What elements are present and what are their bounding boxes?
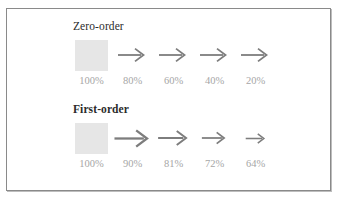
cell-label: 80%: [123, 75, 142, 87]
glyph-container: [112, 122, 153, 154]
glyph-container: [194, 39, 235, 71]
sequence-cell: 20%: [235, 39, 276, 87]
sequence-cell: 90%: [112, 122, 153, 170]
cell-label: 20%: [246, 75, 265, 87]
sequence-cell: 64%: [235, 122, 276, 170]
arrow-right-icon: [201, 130, 228, 146]
arrow-right-icon: [113, 127, 153, 150]
figure-root: Zero-order 100%: [0, 0, 340, 201]
gray-swatch-icon: [75, 123, 108, 154]
sequence-cell: 60%: [153, 39, 194, 87]
sequence-row-first-order: 100% 90%: [71, 122, 276, 170]
glyph-container: [235, 39, 276, 71]
sequence-row-zero-order: 100% 80%: [71, 39, 276, 87]
block-first-order: First-order 100%: [71, 102, 276, 170]
cell-label: 60%: [164, 75, 183, 87]
block-first-order-title: First-order: [73, 102, 276, 116]
cell-label: 90%: [123, 158, 142, 170]
cell-label: 72%: [205, 158, 224, 170]
glyph-container: [112, 39, 153, 71]
sequence-cell: 100%: [71, 122, 112, 170]
cell-label: 81%: [164, 158, 183, 170]
arrow-right-icon: [157, 128, 191, 148]
figure-frame: Zero-order 100%: [6, 8, 331, 191]
cell-label: 100%: [79, 75, 104, 87]
sequence-cell: 81%: [153, 122, 194, 170]
glyph-container: [71, 122, 112, 154]
arrow-right-icon: [117, 46, 148, 64]
gray-swatch-icon: [75, 40, 108, 71]
cell-label: 40%: [205, 75, 224, 87]
sequence-cell: 72%: [194, 122, 235, 170]
glyph-container: [153, 39, 194, 71]
figure-frame-inner: Zero-order 100%: [7, 9, 330, 190]
block-zero-order-title: Zero-order: [73, 19, 276, 33]
arrow-right-icon: [199, 46, 230, 64]
arrow-right-icon: [240, 46, 271, 64]
cell-label: 100%: [79, 158, 104, 170]
arrow-right-icon: [158, 46, 189, 64]
sequence-cell: 40%: [194, 39, 235, 87]
arrow-right-icon: [245, 132, 267, 145]
glyph-container: [194, 122, 235, 154]
glyph-container: [153, 122, 194, 154]
glyph-container: [235, 122, 276, 154]
sequence-cell: 80%: [112, 39, 153, 87]
sequence-cell: 100%: [71, 39, 112, 87]
glyph-container: [71, 39, 112, 71]
block-zero-order: Zero-order 100%: [71, 19, 276, 87]
cell-label: 64%: [246, 158, 265, 170]
